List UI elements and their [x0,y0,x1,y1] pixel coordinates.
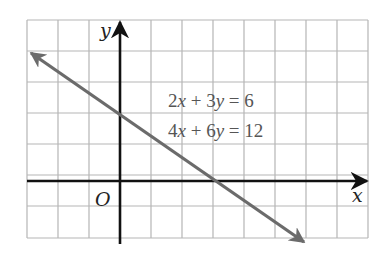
equation-1: 2x + 3y = 6 [168,90,254,111]
y-axis-label: y [99,19,111,41]
equation-2: 4x + 6y = 12 [168,120,263,141]
coordinate-plane: y x O 2x + 3y = 6 4x + 6y = 12 [0,0,389,255]
equation-line [31,53,304,242]
origin-label: O [95,188,111,210]
x-axis-label: x [352,184,363,206]
